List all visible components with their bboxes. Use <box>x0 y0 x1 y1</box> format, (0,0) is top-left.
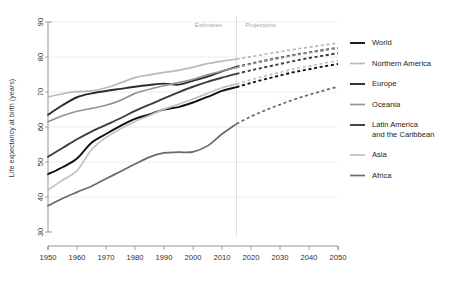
x-tick-label-1990: 1990 <box>156 253 173 262</box>
y-tick-label-30: 30 <box>36 228 45 236</box>
y-tick-label-40: 40 <box>36 193 45 201</box>
y-tick-label-70: 70 <box>36 88 45 96</box>
legend-label-world: World <box>372 38 392 47</box>
legend-label-oceania: Oceania <box>372 100 401 109</box>
y-tick-label-60: 60 <box>36 123 45 131</box>
y-tick-label-80: 80 <box>36 53 45 61</box>
legend-label-asia: Asia <box>372 150 388 159</box>
x-tick-label-1980: 1980 <box>127 253 144 262</box>
x-tick-label-1970: 1970 <box>98 253 115 262</box>
x-tick-label-2010: 2010 <box>214 253 231 262</box>
legend-label-latin-america: Latin America <box>372 120 419 129</box>
y-tick-label-50: 50 <box>36 158 45 166</box>
annotation-estimates: Estimates <box>195 21 222 28</box>
y-tick-label-90: 90 <box>36 18 45 26</box>
x-tick-label-2040: 2040 <box>301 253 318 262</box>
y-axis-title: Life expectancy at birth (years) <box>7 79 16 177</box>
annotation-projections: Projections <box>245 21 276 28</box>
legend-label-latin-america-line2: and the Caribbean <box>372 130 435 139</box>
x-tick-label-2000: 2000 <box>185 253 202 262</box>
x-tick-label-2020: 2020 <box>243 253 260 262</box>
legend-label-africa: Africa <box>372 171 392 180</box>
life-expectancy-line-chart: 30405060708090 1950196019701980199020002… <box>0 0 460 283</box>
x-tick-label-1950: 1950 <box>40 253 57 262</box>
chart-figure: 30405060708090 1950196019701980199020002… <box>0 0 460 283</box>
x-tick-label-1960: 1960 <box>69 253 86 262</box>
legend-label-europe: Europe <box>372 79 397 88</box>
x-tick-label-2050: 2050 <box>330 253 347 262</box>
x-tick-label-2030: 2030 <box>272 253 289 262</box>
legend-label-northern-america: Northern America <box>372 59 432 68</box>
